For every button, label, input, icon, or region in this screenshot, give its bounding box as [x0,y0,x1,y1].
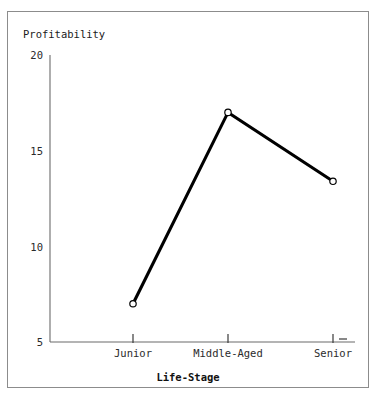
data-point-marker-middle-aged[interactable] [225,109,231,115]
y-tick-label-10: 10 [30,241,43,253]
x-tick-label-junior: Junior [114,347,152,359]
chart-figure: Profitability 20 15 10 5 Junior Middle-A… [0,0,377,401]
profitability-series-line [133,112,333,303]
data-point-marker-senior[interactable] [330,178,336,184]
x-tick-label-senior: Senior [314,347,352,359]
y-tick-label-5: 5 [37,336,43,348]
data-point-marker-junior[interactable] [130,301,136,307]
x-tick-label-middle-aged: Middle-Aged [193,347,263,359]
y-tick-label-20: 20 [30,49,43,61]
y-tick-label-15: 15 [30,145,43,157]
x-axis-title: Life-Stage [156,371,219,383]
y-axis-title: Profitability [23,28,105,40]
line-chart-plot: Profitability 20 15 10 5 Junior Middle-A… [0,0,377,401]
